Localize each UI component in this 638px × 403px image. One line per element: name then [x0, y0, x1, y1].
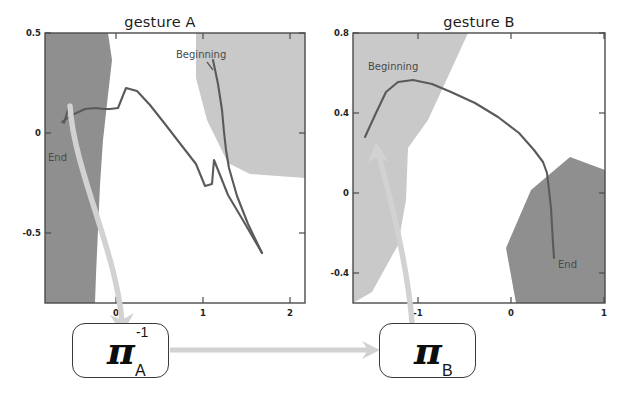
figure-root: gesture A: [0, 0, 638, 403]
panel-b-ytick-0: 0.8: [334, 28, 349, 38]
pi-b-symbol: π: [414, 328, 441, 373]
panel-b-xtick-1: 0: [508, 308, 514, 318]
panel-b-xtick-0: -1: [413, 308, 423, 318]
panel-b-xtick-2: 1: [601, 308, 607, 318]
panel-a-ytick-2: -0.5: [22, 228, 41, 238]
panel-b-ytick-1: 0.4: [334, 108, 349, 118]
panel-a-beginning-label: Beginning: [176, 49, 226, 60]
panel-b-axes: Beginning End 0.8 0.4 0 -0.4: [320, 0, 638, 403]
pi-b-subscript: B: [442, 362, 453, 380]
pi-b-box[interactable]: π B: [379, 323, 476, 378]
panel-a-xtick-1: 1: [200, 308, 206, 318]
pi-a-box[interactable]: π A -1: [72, 323, 169, 378]
panel-b-ytick-2: 0: [343, 188, 349, 198]
pi-a-superscript: -1: [136, 324, 148, 340]
pi-b-label: π B: [414, 334, 441, 368]
panel-a-xtick-2: 2: [287, 308, 293, 318]
panel-a-ytick-1: 0: [35, 128, 41, 138]
panel-gesture-b: gesture B Beginning End: [320, 0, 638, 403]
panel-b-end-label: End: [558, 259, 577, 270]
panel-b-beginning-label: Beginning: [368, 61, 418, 72]
pi-a-symbol: π: [107, 328, 134, 373]
panel-a-end-label: End: [48, 152, 67, 163]
panel-b-ytick-3: -0.4: [330, 268, 349, 278]
panel-a-ytick-0: 0.5: [26, 28, 41, 38]
panel-a-xtick-0: 0: [113, 308, 119, 318]
pi-a-subscript: A: [135, 362, 146, 380]
pi-a-label: π A -1: [107, 334, 134, 368]
